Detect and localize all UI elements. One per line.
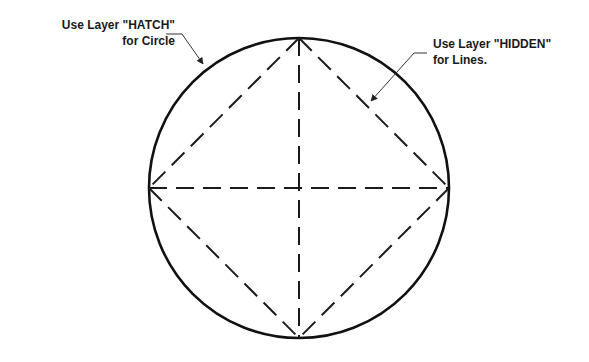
lines-note-line2: for Lines. xyxy=(433,52,551,68)
diamond-edge-bottom-left xyxy=(149,188,299,338)
diamond-edge-top-left xyxy=(149,38,299,188)
diamond-edge-top-right xyxy=(299,38,449,188)
circle-note-line1: Use Layer "HATCH" xyxy=(62,17,175,33)
diamond-edge-bottom-right xyxy=(299,188,449,338)
lines-layer-note: Use Layer "HIDDEN" for Lines. xyxy=(433,36,551,68)
circle-note-line2: for Circle xyxy=(62,33,175,49)
circle-layer-note: Use Layer "HATCH" for Circle xyxy=(62,17,175,49)
lines-note-line1: Use Layer "HIDDEN" xyxy=(433,36,551,52)
hidden-lines xyxy=(149,38,449,338)
